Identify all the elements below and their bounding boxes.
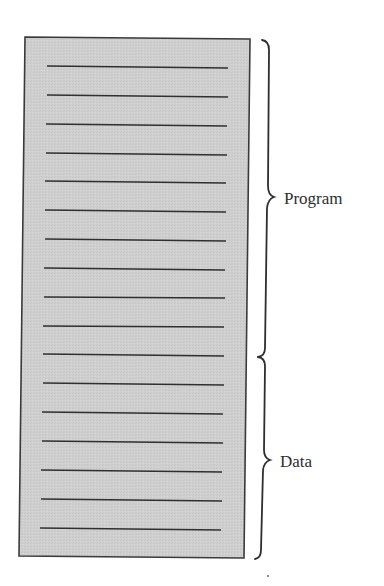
- scan-speck: [267, 575, 269, 577]
- program-label: Program: [284, 190, 343, 207]
- memory-row: [44, 297, 225, 298]
- data-label: Data: [280, 453, 312, 470]
- data-brace-icon: [255, 357, 270, 559]
- memory-diagram: Program Data: [0, 0, 384, 586]
- memory-row: [43, 326, 224, 327]
- program-brace-icon: [258, 40, 274, 357]
- memory-diagram-graphic: [0, 0, 384, 586]
